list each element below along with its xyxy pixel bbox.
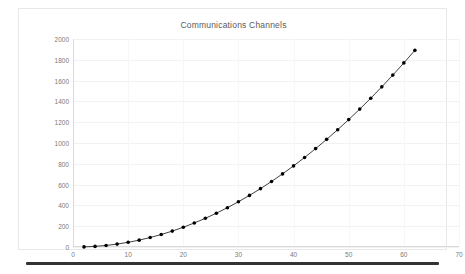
y-axis-tick-label: 1000 bbox=[55, 140, 69, 147]
bottom-rule-divider bbox=[26, 262, 439, 265]
data-point-marker bbox=[215, 211, 219, 215]
y-axis-labels: 0200400600800100012001400160018002000 bbox=[33, 39, 69, 247]
data-point-marker bbox=[170, 229, 174, 233]
y-axis-tick-label: 1400 bbox=[55, 98, 69, 105]
x-axis-tick-label: 0 bbox=[71, 251, 75, 258]
data-point-marker bbox=[380, 85, 384, 89]
data-point-marker bbox=[369, 96, 373, 100]
y-axis-tick-label: 1600 bbox=[55, 77, 69, 84]
chart-title: Communications Channels bbox=[19, 20, 448, 30]
y-axis-tick-label: 400 bbox=[58, 202, 69, 209]
y-axis-tick-label: 1200 bbox=[55, 119, 69, 126]
data-point-marker bbox=[303, 156, 307, 160]
data-point-marker bbox=[159, 233, 163, 237]
x-axis-tick-label: 40 bbox=[290, 251, 297, 258]
data-point-marker bbox=[237, 200, 241, 204]
gridline-horizontal bbox=[73, 247, 459, 248]
data-point-marker bbox=[259, 187, 263, 191]
x-axis-tick-label: 30 bbox=[235, 251, 242, 258]
x-axis-tick-label: 50 bbox=[345, 251, 352, 258]
gridline-vertical bbox=[459, 39, 460, 247]
data-point-marker bbox=[248, 194, 252, 198]
y-axis-tick-label: 800 bbox=[58, 160, 69, 167]
data-point-marker bbox=[104, 244, 108, 248]
plot-area bbox=[73, 39, 459, 247]
data-point-marker bbox=[181, 225, 185, 229]
data-series-line bbox=[73, 39, 459, 247]
data-point-marker bbox=[292, 164, 296, 168]
data-point-marker bbox=[391, 73, 395, 77]
series-polyline bbox=[84, 50, 415, 247]
data-point-marker bbox=[137, 238, 141, 242]
data-point-marker bbox=[193, 221, 197, 225]
x-axis-tick-label: 60 bbox=[400, 251, 407, 258]
data-point-marker bbox=[126, 241, 130, 245]
data-point-marker bbox=[115, 242, 119, 246]
x-axis-tick-label: 10 bbox=[125, 251, 132, 258]
data-point-marker bbox=[347, 118, 351, 122]
data-point-marker bbox=[93, 245, 97, 249]
y-axis-tick-label: 200 bbox=[58, 223, 69, 230]
data-point-marker bbox=[325, 138, 329, 142]
data-point-marker bbox=[82, 245, 86, 249]
data-point-marker bbox=[402, 61, 406, 65]
series-markers bbox=[82, 49, 416, 249]
y-axis-tick-label: 600 bbox=[58, 181, 69, 188]
data-point-marker bbox=[358, 107, 362, 111]
y-axis-tick-label: 1800 bbox=[55, 56, 69, 63]
data-point-marker bbox=[281, 172, 285, 176]
data-point-marker bbox=[226, 206, 230, 210]
data-point-marker bbox=[413, 49, 417, 53]
y-axis-tick-label: 2000 bbox=[55, 36, 69, 43]
chart-container: Communications Channels 0200400600800100… bbox=[18, 8, 447, 250]
data-point-marker bbox=[148, 236, 152, 240]
x-axis-tick-label: 20 bbox=[180, 251, 187, 258]
data-point-marker bbox=[204, 217, 208, 221]
y-axis-tick-label: 0 bbox=[65, 244, 69, 251]
data-point-marker bbox=[336, 128, 340, 132]
x-axis-tick-label: 70 bbox=[455, 251, 462, 258]
data-point-marker bbox=[314, 147, 318, 151]
data-point-marker bbox=[270, 180, 274, 184]
